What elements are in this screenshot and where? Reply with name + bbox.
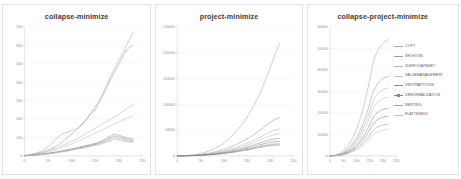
svg-text:40000: 40000 (317, 68, 327, 72)
svg-text:200: 200 (116, 159, 122, 163)
svg-text:250000: 250000 (164, 25, 176, 29)
svg-text:100: 100 (221, 159, 227, 163)
line-chart-svg: 0500001000001500002000002500000501001502… (156, 23, 301, 174)
svg-text:0: 0 (20, 154, 22, 158)
svg-text:200: 200 (16, 117, 22, 121)
svg-text:150: 150 (92, 159, 98, 163)
svg-text:0: 0 (325, 154, 327, 158)
svg-text:200: 200 (380, 159, 386, 163)
svg-text:50000: 50000 (166, 128, 176, 132)
svg-text:100: 100 (353, 159, 359, 163)
svg-text:0: 0 (173, 154, 175, 158)
chart-title: project-minimize (156, 5, 301, 23)
svg-text:200000: 200000 (164, 51, 176, 55)
svg-text:0: 0 (177, 159, 179, 163)
svg-text:30000: 30000 (317, 90, 327, 94)
figure-root: collapse-minimize 0100200300400500600700… (0, 0, 461, 179)
svg-text:500: 500 (16, 62, 22, 66)
svg-text:250: 250 (393, 159, 399, 163)
chart-title: collapse-minimize (3, 5, 150, 23)
chart-panel-collapse-project-minimize: collapse-project-minimize 01000020000300… (307, 4, 459, 175)
svg-text:600: 600 (16, 44, 22, 48)
svg-text:10000: 10000 (317, 133, 327, 137)
svg-text:0: 0 (24, 159, 26, 163)
svg-text:50: 50 (46, 159, 50, 163)
svg-text:0: 0 (329, 159, 331, 163)
svg-text:250: 250 (140, 159, 146, 163)
svg-text:150: 150 (245, 159, 251, 163)
svg-text:50: 50 (341, 159, 345, 163)
svg-text:100: 100 (16, 136, 22, 140)
svg-text:100: 100 (69, 159, 75, 163)
chart-panel-collapse-minimize: collapse-minimize 0100200300400500600700… (2, 4, 151, 175)
plot-area: 0100002000030000400005000060000050100150… (308, 23, 458, 174)
svg-text:150000: 150000 (164, 77, 176, 81)
svg-text:60000: 60000 (317, 25, 327, 29)
svg-text:50000: 50000 (317, 47, 327, 51)
svg-text:700: 700 (16, 25, 22, 29)
svg-text:150: 150 (366, 159, 372, 163)
svg-text:400: 400 (16, 81, 22, 85)
svg-text:300: 300 (16, 99, 22, 103)
plot-area: 0100200300400500600700050100150200250 (3, 23, 150, 174)
line-chart-svg: 0100200300400500600700050100150200250 (3, 23, 150, 174)
svg-text:250: 250 (291, 159, 297, 163)
svg-text:50: 50 (199, 159, 203, 163)
plot-area: 0500001000001500002000002500000501001502… (156, 23, 301, 174)
chart-panel-project-minimize: project-minimize 05000010000015000020000… (155, 4, 302, 175)
svg-text:200: 200 (268, 159, 274, 163)
line-chart-svg: 0100002000030000400005000060000050100150… (308, 23, 458, 174)
svg-text:20000: 20000 (317, 111, 327, 115)
svg-text:100000: 100000 (164, 103, 176, 107)
chart-title: collapse-project-minimize (308, 5, 458, 23)
